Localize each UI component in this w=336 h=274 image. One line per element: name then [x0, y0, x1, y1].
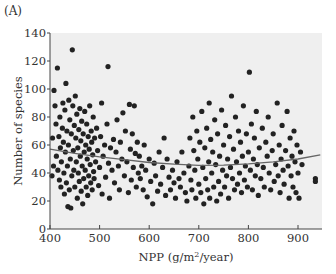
- data-point: [84, 184, 89, 189]
- data-point: [248, 168, 253, 173]
- data-point: [50, 135, 55, 140]
- data-point: [222, 184, 227, 189]
- x-axis-title: NPP (g/m2/year): [139, 250, 234, 264]
- data-point: [234, 159, 239, 164]
- data-point: [194, 128, 199, 133]
- data-point: [249, 121, 254, 126]
- data-point: [214, 198, 219, 203]
- data-point: [241, 103, 246, 108]
- data-point: [77, 106, 82, 111]
- data-point: [76, 170, 81, 175]
- data-point: [239, 190, 244, 195]
- data-point: [148, 179, 153, 184]
- data-point: [82, 109, 87, 114]
- data-point: [109, 168, 114, 173]
- data-point: [211, 184, 216, 189]
- data-point: [233, 114, 238, 119]
- data-point: [102, 142, 107, 147]
- data-point: [89, 140, 94, 145]
- y-tick-label: 120: [24, 54, 46, 68]
- data-point: [162, 135, 167, 140]
- y-tick-label: 80: [31, 110, 46, 124]
- data-point: [99, 100, 104, 105]
- data-point: [97, 165, 102, 170]
- data-point: [258, 176, 263, 181]
- data-point: [86, 134, 91, 139]
- data-point: [276, 173, 281, 178]
- data-point: [179, 149, 184, 154]
- data-point: [114, 117, 119, 122]
- data-point: [120, 110, 125, 115]
- data-point: [74, 159, 79, 164]
- data-point: [53, 121, 58, 126]
- data-point: [66, 98, 71, 103]
- data-point: [91, 114, 96, 119]
- data-point: [92, 135, 97, 140]
- data-point: [271, 131, 276, 136]
- data-point: [95, 148, 100, 153]
- x-tick-label: 900: [287, 231, 309, 245]
- data-point: [270, 148, 275, 153]
- data-point: [257, 145, 262, 150]
- data-point: [202, 145, 207, 150]
- data-point: [289, 154, 294, 159]
- data-point: [76, 127, 81, 132]
- data-point: [204, 126, 209, 131]
- data-point: [68, 205, 73, 210]
- data-point: [294, 142, 299, 147]
- data-point: [108, 145, 113, 150]
- data-point: [145, 194, 150, 199]
- data-point: [278, 190, 283, 195]
- data-point: [69, 131, 74, 136]
- data-point: [79, 189, 84, 194]
- data-point: [57, 114, 62, 119]
- data-point: [100, 191, 105, 196]
- y-tick-label: 140: [24, 26, 46, 40]
- data-point: [286, 163, 291, 168]
- data-point: [86, 173, 91, 178]
- data-point: [265, 154, 270, 159]
- data-point: [64, 128, 69, 133]
- data-point: [85, 193, 90, 198]
- data-point: [205, 187, 210, 192]
- data-point: [91, 169, 96, 174]
- data-point: [70, 103, 75, 108]
- data-point: [56, 134, 61, 139]
- data-point: [87, 147, 92, 152]
- data-point: [158, 182, 163, 187]
- data-point: [256, 193, 261, 198]
- data-point: [126, 190, 131, 195]
- data-point: [210, 149, 215, 154]
- data-point: [191, 148, 196, 153]
- data-point: [176, 176, 181, 181]
- data-point: [69, 173, 74, 178]
- data-point: [80, 163, 85, 168]
- data-point: [107, 196, 112, 201]
- data-point: [217, 154, 222, 159]
- data-point: [283, 148, 288, 153]
- data-point: [273, 162, 278, 167]
- data-point: [212, 117, 217, 122]
- data-point: [88, 162, 93, 167]
- y-tick-label: 100: [24, 82, 46, 96]
- data-point: [246, 149, 251, 154]
- y-axis-title: Number of species: [11, 76, 25, 186]
- data-point: [67, 187, 72, 192]
- data-point: [93, 159, 98, 164]
- x-tick-label: 500: [89, 231, 111, 245]
- data-point: [226, 196, 231, 201]
- data-point: [57, 177, 62, 182]
- data-point: [165, 156, 170, 161]
- data-point: [153, 173, 158, 178]
- data-point: [72, 123, 77, 128]
- data-point: [209, 170, 214, 175]
- data-point: [254, 109, 259, 114]
- data-point: [199, 109, 204, 114]
- data-point: [87, 103, 92, 108]
- data-point: [244, 131, 249, 136]
- scatter-chart: 020406080100120140 400500600700800900 Nu…: [0, 0, 336, 274]
- data-point: [105, 64, 110, 69]
- data-point: [266, 114, 271, 119]
- data-point: [298, 149, 303, 154]
- data-point: [127, 102, 132, 107]
